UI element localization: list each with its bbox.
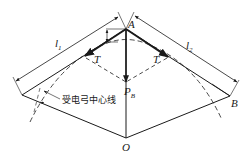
link-B-O (126, 96, 230, 138)
label-PB: PB (124, 86, 135, 100)
label-A: A (128, 19, 135, 30)
dim-l1 (16, 17, 118, 81)
pantograph-diagram (0, 0, 247, 159)
centerline-leader (44, 91, 60, 99)
label-T-right: T (153, 54, 159, 65)
label-B: B (231, 98, 238, 109)
label-l2: l2 (186, 40, 193, 54)
label-centerline: 受电弓中心线 (62, 96, 116, 105)
label-O: O (122, 142, 130, 153)
label-T-left: T (94, 54, 100, 65)
dashed-line-left (86, 58, 126, 82)
dashed-line-right (126, 58, 167, 82)
force-T-left (85, 29, 126, 56)
label-l1: l1 (55, 38, 62, 52)
